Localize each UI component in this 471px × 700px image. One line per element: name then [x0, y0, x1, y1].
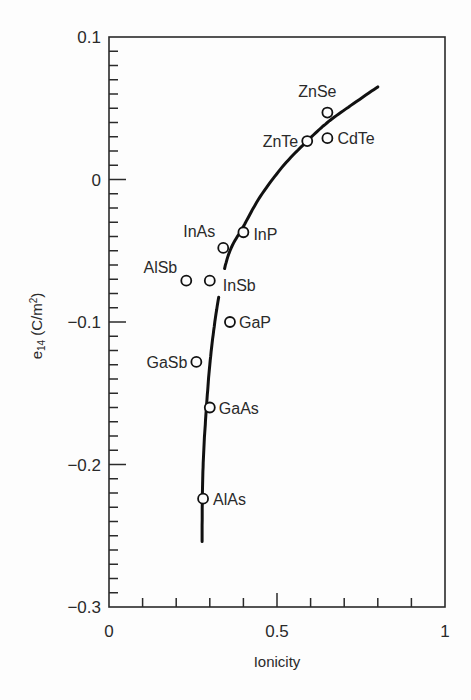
data-point-gasb: GaSb — [146, 354, 201, 371]
point-label: GaAs — [219, 400, 259, 417]
point-label: ZnSe — [298, 83, 336, 100]
data-point-inp: InP — [238, 226, 277, 243]
point-label: InAs — [183, 223, 215, 240]
open-circle-marker — [191, 357, 201, 367]
data-point-gaas: GaAs — [205, 400, 259, 417]
open-circle-marker — [225, 317, 235, 327]
data-point-alas: AlAs — [198, 491, 246, 508]
open-circle-marker — [218, 243, 228, 253]
point-label: InP — [253, 226, 277, 243]
y-axis-title: e14 (C/m2) — [28, 293, 47, 360]
data-point-znte: ZnTe — [263, 133, 313, 150]
y-axis-title-close: ) — [28, 293, 45, 298]
point-label: InSb — [223, 277, 256, 294]
point-label: CdTe — [337, 130, 374, 147]
open-circle-marker — [205, 276, 215, 286]
y-axis-title-subscript: 14 — [36, 339, 47, 351]
x-axis-title: Ionicity — [254, 653, 301, 670]
x-tick-label: 1 — [440, 622, 449, 641]
data-point-gap: GaP — [225, 314, 271, 331]
data-point-insb: InSb — [205, 276, 256, 294]
x-tick-label: 0 — [104, 622, 113, 641]
plot-frame — [109, 37, 445, 607]
point-label: GaP — [239, 314, 271, 331]
y-tick-label: −0.3 — [67, 598, 101, 617]
x-axis-ticks: 00.51 — [104, 593, 449, 641]
point-label: ZnTe — [263, 133, 299, 150]
open-circle-marker — [322, 108, 332, 118]
open-circle-marker — [198, 494, 208, 504]
open-circle-marker — [205, 403, 215, 413]
data-point-znse: ZnSe — [298, 83, 336, 118]
point-label: GaSb — [146, 354, 187, 371]
y-tick-label: −0.1 — [67, 313, 101, 332]
data-point-alsb: AlSb — [143, 259, 191, 286]
open-circle-marker — [302, 136, 312, 146]
trend-curve-segment — [225, 87, 378, 269]
plot-border — [109, 37, 445, 607]
open-circle-marker — [181, 276, 191, 286]
y-tick-label: −0.2 — [67, 456, 101, 475]
point-label: AlAs — [213, 491, 246, 508]
y-axis-title-unit: (C/m — [28, 303, 45, 340]
y-tick-label: 0.1 — [77, 28, 101, 47]
x-tick-label: 0.5 — [265, 622, 289, 641]
data-points: ZnSeZnTeCdTeInPInAsAlSbInSbGaPGaSbGaAsAl… — [143, 83, 374, 508]
y-axis-ticks: 0.10−0.1−0.2−0.3 — [67, 28, 126, 617]
scatter-chart: 0.10−0.1−0.2−0.3 00.51 ZnSeZnTeCdTeInPIn… — [0, 0, 471, 700]
trend-curve — [202, 87, 378, 542]
open-circle-marker — [238, 227, 248, 237]
data-point-inas: InAs — [183, 223, 228, 253]
point-label: AlSb — [143, 259, 177, 276]
open-circle-marker — [322, 133, 332, 143]
y-axis-title-base: e — [28, 351, 45, 359]
y-tick-label: 0 — [92, 171, 101, 190]
data-point-cdte: CdTe — [322, 130, 374, 147]
